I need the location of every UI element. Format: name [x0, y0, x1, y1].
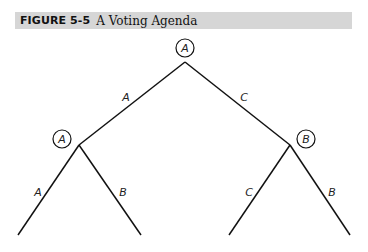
- edge-label-root-right: C: [240, 91, 248, 104]
- edge-right-right: [290, 145, 350, 235]
- root-node: A: [176, 39, 194, 57]
- edge-root-right: [185, 62, 290, 145]
- edge-left-left: [18, 145, 79, 235]
- left-node: A: [53, 130, 71, 148]
- right-node-label: B: [302, 133, 310, 146]
- left-node-label: A: [57, 133, 66, 146]
- edge-root-left: [79, 62, 185, 145]
- voting-agenda-tree: A A B A C A B C B: [0, 0, 368, 252]
- right-node: B: [297, 130, 315, 148]
- edge-label-right-left: C: [245, 186, 253, 199]
- edge-label-left-right: B: [119, 186, 127, 199]
- root-node-label: A: [180, 42, 189, 55]
- edge-left-right: [79, 145, 141, 235]
- edge-label-right-right: B: [328, 186, 336, 199]
- edge-right-left: [229, 145, 290, 235]
- edge-label-root-left: A: [121, 91, 130, 104]
- edge-label-left-left: A: [33, 186, 42, 199]
